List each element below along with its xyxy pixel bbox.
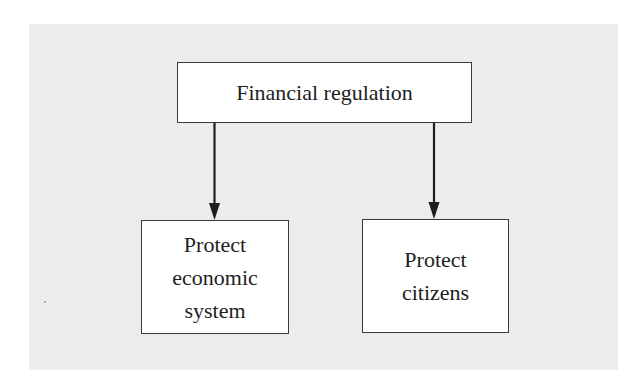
node-protect-economic-system: Protect economic system: [141, 220, 289, 334]
node-label-line: Protect: [184, 228, 246, 261]
node-protect-citizens: Protect citizens: [362, 219, 509, 333]
scan-artifact-dot: [44, 301, 46, 303]
node-label: Financial regulation: [236, 76, 413, 109]
node-label-line: economic: [172, 261, 258, 294]
node-label-line: citizens: [402, 276, 469, 309]
node-financial-regulation: Financial regulation: [177, 62, 472, 123]
node-label-line: system: [184, 294, 245, 327]
node-label-line: Protect: [404, 243, 466, 276]
